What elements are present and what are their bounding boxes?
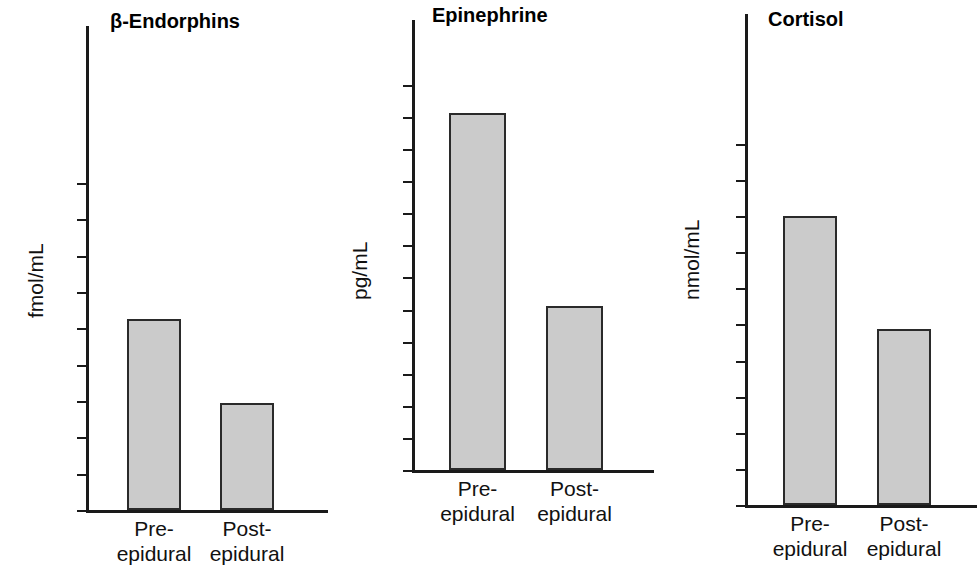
bar-pre-epidural bbox=[449, 113, 506, 470]
y-axis-tick bbox=[77, 437, 86, 439]
y-axis-tick bbox=[403, 85, 412, 87]
bar-post-epidural bbox=[546, 306, 603, 470]
y-axis-tick bbox=[736, 288, 745, 290]
category-label-line: Post- bbox=[834, 511, 974, 536]
y-axis-label: fmol/mL bbox=[24, 243, 48, 318]
y-axis-tick bbox=[77, 292, 86, 294]
y-axis-tick bbox=[736, 216, 745, 218]
y-axis-tick bbox=[736, 505, 745, 507]
y-axis-line bbox=[745, 14, 748, 507]
y-axis-tick bbox=[77, 183, 86, 185]
x-axis-category-label: Post-epidural bbox=[505, 476, 645, 526]
chart-title: Epinephrine bbox=[432, 4, 548, 27]
y-axis-tick bbox=[77, 328, 86, 330]
y-axis-tick bbox=[403, 181, 412, 183]
y-axis-tick bbox=[736, 469, 745, 471]
y-axis-tick bbox=[736, 252, 745, 254]
bar-chart-figure: 0102030405060708090Pre-epiduralPost-epid… bbox=[0, 0, 977, 568]
category-label-line: epidural bbox=[177, 541, 317, 566]
category-label-line: Post- bbox=[505, 476, 645, 501]
y-axis-tick bbox=[736, 361, 745, 363]
y-axis-tick bbox=[736, 144, 745, 146]
y-axis-label: nmol/mL bbox=[680, 219, 704, 300]
bar-pre-epidural bbox=[127, 319, 181, 510]
x-axis-line bbox=[412, 470, 654, 473]
y-axis-tick bbox=[403, 245, 412, 247]
y-axis-tick bbox=[403, 470, 412, 472]
y-axis-tick bbox=[403, 277, 412, 279]
y-axis-tick bbox=[77, 474, 86, 476]
y-axis-tick bbox=[403, 117, 412, 119]
y-axis-tick bbox=[736, 180, 745, 182]
category-label-line: Post- bbox=[177, 516, 317, 541]
y-axis-line bbox=[412, 20, 415, 472]
y-axis-label: pg/mL bbox=[348, 242, 372, 300]
y-axis-tick bbox=[77, 401, 86, 403]
chart-title: β-Endorphins bbox=[110, 10, 240, 33]
y-axis-tick bbox=[403, 342, 412, 344]
y-axis-tick bbox=[736, 397, 745, 399]
y-axis-tick bbox=[403, 310, 412, 312]
bar-post-epidural bbox=[220, 403, 274, 510]
x-axis-line bbox=[745, 505, 977, 508]
y-axis-tick bbox=[77, 256, 86, 258]
y-axis-tick bbox=[403, 149, 412, 151]
x-axis-line bbox=[86, 510, 328, 513]
y-axis-tick bbox=[403, 406, 412, 408]
bar-post-epidural bbox=[877, 329, 931, 505]
y-axis-tick bbox=[403, 213, 412, 215]
chart-title: Cortisol bbox=[768, 8, 844, 31]
bar-pre-epidural bbox=[783, 216, 837, 505]
y-axis-tick bbox=[77, 510, 86, 512]
category-label-line: epidural bbox=[505, 501, 645, 526]
x-axis-category-label: Post-epidural bbox=[177, 516, 317, 566]
y-axis-tick bbox=[403, 374, 412, 376]
x-axis-category-label: Post-epidural bbox=[834, 511, 974, 561]
y-axis-line bbox=[86, 26, 89, 512]
category-label-line: epidural bbox=[834, 536, 974, 561]
y-axis-tick bbox=[736, 433, 745, 435]
y-axis-tick bbox=[77, 219, 86, 221]
y-axis-tick bbox=[736, 324, 745, 326]
y-axis-tick bbox=[403, 438, 412, 440]
y-axis-tick bbox=[77, 365, 86, 367]
